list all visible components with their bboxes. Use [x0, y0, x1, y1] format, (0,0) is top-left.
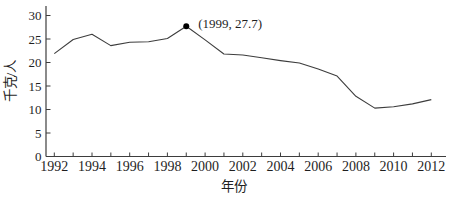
y-tick-label: 20	[29, 55, 42, 70]
x-tick-label: 2004	[267, 159, 295, 174]
y-tick-label: 5	[35, 126, 42, 141]
y-axis-tick-labels: 051015202530	[29, 8, 42, 164]
y-tick-label: 30	[29, 8, 42, 23]
x-tick-label: 1994	[78, 159, 106, 174]
y-tick-label: 15	[29, 79, 42, 94]
x-tick-label: 1998	[153, 159, 181, 174]
x-axis-title: 年份	[221, 179, 248, 194]
x-tick-label: 1996	[116, 159, 144, 174]
peak-annotation: (1999, 27.7)	[183, 16, 262, 31]
y-tick-label: 0	[35, 149, 42, 164]
x-tick-label: 2012	[417, 159, 445, 174]
line-chart-figure: 1992199419961998200020022004200620082010…	[0, 0, 455, 203]
x-tick-label: 2010	[380, 159, 408, 174]
x-tick-label: 2002	[229, 159, 257, 174]
peak-marker-dot	[183, 23, 189, 29]
peak-annotation-label: (1999, 27.7)	[198, 16, 262, 31]
y-tick-label: 25	[29, 32, 42, 47]
line-chart: 1992199419961998200020022004200620082010…	[0, 0, 455, 203]
x-tick-label: 2000	[191, 159, 219, 174]
x-axis-ticks	[54, 153, 431, 157]
y-axis-title: 千克/人	[3, 59, 18, 103]
x-tick-label: 2008	[342, 159, 370, 174]
data-line	[54, 26, 431, 108]
y-axis-ticks	[46, 16, 51, 157]
x-tick-label: 2006	[304, 159, 332, 174]
x-tick-label: 1992	[40, 159, 68, 174]
x-axis-tick-labels: 1992199419961998200020022004200620082010…	[40, 159, 445, 174]
data-series	[54, 26, 431, 108]
y-tick-label: 10	[29, 102, 42, 117]
